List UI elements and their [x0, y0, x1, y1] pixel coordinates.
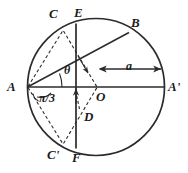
geometry-figure: A A' B C C' D E F O θ π/3 a — [0, 0, 188, 173]
point-label-o: O — [96, 90, 105, 103]
dashed-segment-d-tick — [77, 95, 80, 109]
point-label-c: C — [49, 7, 58, 20]
point-label-f: F — [72, 151, 81, 164]
angle-arc-theta — [60, 74, 63, 88]
point-label-a: A — [7, 80, 16, 93]
point-label-b: B — [131, 16, 140, 29]
length-label-a: a — [126, 60, 132, 72]
point-label-e: E — [74, 6, 83, 19]
angle-label-theta: θ — [64, 64, 70, 76]
angle-label-pi-over-3: π/3 — [39, 92, 55, 104]
diagram-canvas — [0, 0, 188, 173]
dashed-segment-c-d-arrow — [78, 56, 88, 73]
chord-a-b — [28, 33, 130, 88]
point-label-c-prime: C' — [47, 148, 59, 161]
point-label-a-prime: A' — [168, 80, 180, 93]
point-label-d: D — [84, 110, 93, 123]
